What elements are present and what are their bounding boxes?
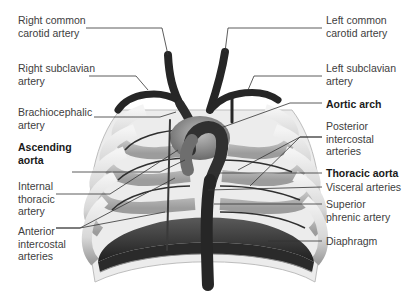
label-anterior-intercostal-arteries: Anterior intercostal arteries: [18, 225, 66, 263]
label-diaphragm: Diaphragm: [326, 235, 377, 248]
label-superior-phrenic-artery: Superior phrenic artery: [326, 198, 390, 223]
label-aortic-arch: Aortic arch: [326, 98, 381, 111]
label-thoracic-aorta: Thoracic aorta: [326, 167, 398, 180]
label-left-common-carotid-artery: Left common carotid artery: [326, 14, 387, 39]
label-brachiocephalic-artery: Brachiocephalic artery: [18, 106, 92, 131]
label-internal-thoracic-artery: Internal thoracic artery: [18, 180, 55, 218]
label-visceral-arteries: Visceral arteries: [326, 181, 401, 194]
label-ascending-aorta: Ascending aorta: [18, 141, 72, 166]
label-posterior-intercostal-arteries: Posterior intercostal arteries: [326, 120, 374, 158]
label-right-subclavian-artery: Right subclavian artery: [18, 62, 95, 87]
label-left-subclavian-artery: Left subclavian artery: [326, 62, 396, 87]
label-right-common-carotid-artery: Right common carotid artery: [18, 14, 86, 39]
thoracic-aorta-diagram: Right common carotid artery Right subcla…: [0, 0, 412, 304]
